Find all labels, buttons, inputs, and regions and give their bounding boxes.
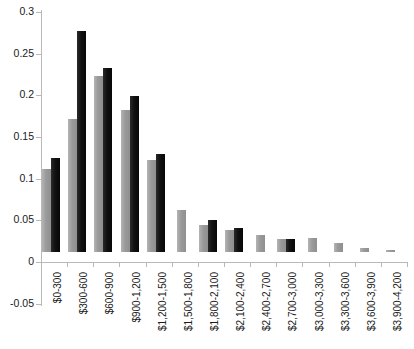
bar-group [360,2,369,252]
x-axis-tick-label: $600-900 [105,272,115,314]
y-axis-tick-label: 0.25 [0,48,34,59]
bar [334,243,343,252]
x-axis-tick-label: $3,900-4,200 [393,272,403,331]
plot-area [41,10,407,306]
bar-group [256,2,265,252]
y-axis-tick-label: 0.15 [0,131,34,142]
x-axis-tick-label: $2,100-2,400 [236,272,246,331]
bar-group [386,2,395,252]
bar [42,169,51,252]
x-axis-tick-label: $300-600 [79,272,89,314]
bar [156,154,165,252]
bar-group [225,2,243,252]
bar [234,228,243,252]
bar-group [147,2,165,252]
x-axis-tick-label: $1,200-1,500 [158,272,168,331]
x-axis-tick-label: $2,700-3,000 [288,272,298,331]
bar-group [68,2,86,252]
bar [277,239,286,252]
y-axis-tick-label: 0.2 [0,89,34,100]
x-axis-tick-label: $900-1,200 [132,272,142,323]
bar-chart: -0.0500.050.10.150.20.250.3 $0-300$300-6… [0,0,414,349]
bar-group [177,2,186,252]
y-axis-tick-label: 0 [0,256,34,267]
x-axis-tick-label: $0-300 [53,272,63,303]
bar-group [121,2,139,252]
bar [51,158,60,252]
x-axis-tick-label: $1,800-2,100 [210,272,220,331]
bar-group [277,2,295,252]
y-axis-tick-label: 0.05 [0,214,34,225]
bar [256,235,265,252]
bar [130,96,139,252]
x-axis-tick-label: $2,400-2,700 [262,272,272,331]
bar [208,220,217,252]
bar-group [42,2,60,252]
x-axis-tick-label: $1,500-1,800 [184,272,194,331]
bar [121,110,130,252]
bar [286,239,295,252]
x-axis-tick-label: $3,000-3,300 [315,272,325,331]
bar [147,160,156,252]
y-axis-tick-label: 0.3 [0,6,34,17]
x-axis-tick-label: $3,600-3,900 [367,272,377,331]
x-axis-tick-label: $3,300-3,600 [341,272,351,331]
bar-group [308,2,317,252]
bar [177,210,186,252]
y-axis-tick-label: -0.05 [0,298,34,309]
bar-group [334,2,343,252]
bar [77,31,86,252]
bar-group [94,2,112,252]
bar [225,230,234,253]
bar [386,250,395,253]
bar [360,248,369,252]
bar [308,238,317,252]
bar [94,76,103,252]
bar [199,225,208,253]
bar-group [199,2,217,252]
y-axis-tick-label: 0.1 [0,173,34,184]
x-axis-tick [407,262,408,267]
bar [68,119,77,252]
bar [103,68,112,252]
